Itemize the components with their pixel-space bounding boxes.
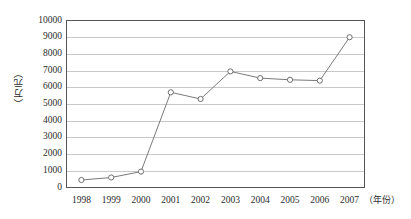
x-axis-tick-label: 2006: [310, 195, 329, 205]
x-axis-tick-label: 1999: [102, 195, 121, 205]
x-axis-tick-label: 2003: [221, 195, 240, 205]
x-axis-tick-label: 2001: [161, 195, 180, 205]
x-axis-tick-label: 2007: [340, 195, 359, 205]
x-axis-tick-label: 1998: [72, 195, 91, 205]
x-axis-tick-label: 2000: [132, 195, 151, 205]
x-axis-title: （年份）: [364, 195, 400, 205]
x-axis-tick-labels: 1998199920002001200220032004200520062007…: [0, 0, 411, 219]
x-axis-tick-label: 2005: [281, 195, 300, 205]
x-axis-tick-label: 2004: [251, 195, 270, 205]
line-chart: （万元） 01000200030004000500060007000800090…: [0, 0, 411, 219]
x-axis-tick-label: 2002: [191, 195, 210, 205]
